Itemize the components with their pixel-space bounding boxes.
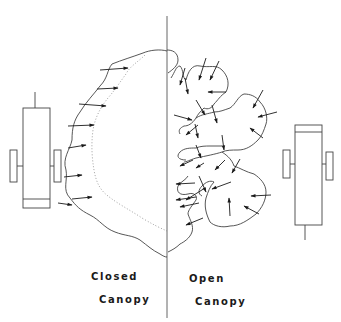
open-canopy-spray-arrows xyxy=(174,58,277,225)
left-sprayer-icon xyxy=(10,92,61,208)
canopy-spray-diagram xyxy=(0,0,341,322)
closed-canopy-spray-arrows xyxy=(58,68,128,205)
open-canopy-label-line1: Open xyxy=(189,273,225,284)
open-canopy-label-line2: Canopy xyxy=(195,296,246,307)
closed-canopy-outline xyxy=(65,50,167,257)
right-sprayer-icon xyxy=(283,125,333,240)
open-canopy-outline xyxy=(167,50,267,252)
closed-canopy-label-line1: Closed xyxy=(91,271,138,282)
closed-canopy-label-line2: Canopy xyxy=(99,294,150,305)
